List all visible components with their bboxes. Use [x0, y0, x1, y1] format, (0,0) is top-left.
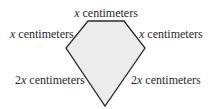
- label-lower-right-side: 2x centimeters: [131, 73, 201, 87]
- label-upper-left-side: x centimeters: [9, 27, 74, 41]
- label-top-side: x centimeters: [73, 6, 138, 20]
- pentagon-shape: [66, 21, 145, 106]
- label-lower-left-side: 2x centimeters: [15, 73, 85, 87]
- pentagon-diagram: x centimeters x centimeters x centimeter…: [0, 0, 208, 109]
- label-upper-right-side: x centimeters: [138, 27, 203, 41]
